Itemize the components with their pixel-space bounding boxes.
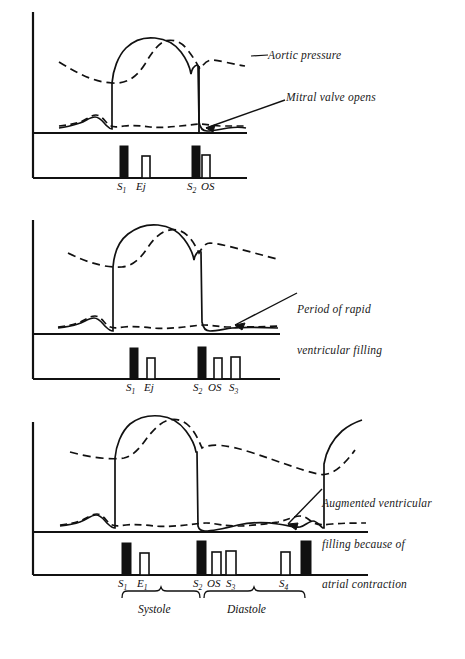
augmented-filling-label: Augmented ventricular filling because of… — [322, 470, 432, 619]
s3-bar — [231, 357, 240, 379]
sound-label-os: OS — [201, 180, 214, 192]
s3-bar — [226, 551, 236, 575]
sound-label-s1-sub: 1 — [124, 583, 128, 592]
sound-label-os-base: OS — [207, 577, 220, 589]
mitral-valve-opens-label: Mitral valve opens — [286, 91, 376, 105]
sound-label-s2-sub: 2 — [199, 583, 203, 592]
sound-label-os: OS — [207, 577, 220, 589]
sound-label-s2: S2 — [193, 381, 202, 396]
augmented-filling-leader — [288, 489, 322, 524]
rapid-filling-label: Period of rapid ventricular filling — [297, 276, 382, 384]
sound-label-s3: S3 — [226, 577, 235, 592]
sound-label-e1-base: E — [137, 577, 144, 589]
sound-label-s1: S1 — [126, 381, 135, 396]
s2-bar — [192, 146, 200, 178]
sound-label-s2: S2 — [193, 577, 202, 592]
sound-label-s4: S4 — [279, 577, 288, 592]
s1-bar — [122, 543, 131, 575]
augmented-filling-line1: Augmented ventricular — [322, 497, 432, 511]
panel-2-plot — [0, 208, 465, 408]
sound-label-s4-sub: 4 — [285, 583, 289, 592]
s1-bar — [130, 348, 138, 379]
ventricular-pressure-curve — [58, 225, 278, 331]
os-bar — [212, 552, 221, 575]
rapid-filling-line1: Period of rapid — [297, 303, 382, 317]
diastole-label: Diastole — [227, 603, 266, 615]
ej-bar — [147, 358, 155, 379]
sound-label-os-base: OS — [201, 180, 214, 192]
sound-label-os: OS — [208, 381, 221, 393]
atrial-pressure-curve — [60, 514, 366, 526]
sound-label-s3-sub: 3 — [232, 583, 236, 592]
os-bar — [202, 155, 210, 178]
sound-label-ej-base: Ej — [136, 180, 146, 192]
atrial-pressure-curve — [59, 115, 246, 127]
sound-label-s1-sub: 1 — [132, 387, 136, 396]
augmented-filling-line2: filling because of — [322, 538, 432, 552]
aortic-pressure-curve — [70, 419, 355, 474]
ej-bar — [142, 156, 150, 178]
rapid-filling-line2: ventricular filling — [297, 344, 382, 358]
aortic-pressure-curve — [59, 40, 245, 83]
rapid-filling-leader — [235, 293, 297, 325]
e1-bar — [140, 553, 149, 575]
s2-bar — [197, 541, 206, 575]
s1-next-bar — [301, 541, 311, 575]
sound-label-s3-sub: 3 — [235, 387, 239, 396]
sound-label-os-base: OS — [208, 381, 221, 393]
panel-3: Augmented ventricular filling because of… — [0, 412, 465, 659]
sound-label-s1: S1 — [117, 180, 126, 195]
sound-label-ej-base: Ej — [144, 381, 154, 393]
sound-label-s2-sub: 2 — [199, 387, 203, 396]
sound-label-ej: Ej — [136, 180, 146, 192]
mitral-valve-leader — [206, 100, 285, 128]
sound-label-e1-sub: 1 — [144, 583, 148, 592]
augmented-filling-line3: atrial contraction — [322, 578, 432, 592]
systole-label: Systole — [138, 603, 171, 615]
s4-bar — [281, 552, 290, 575]
panel-2: Period of rapid ventricular filling S1 E… — [0, 208, 465, 408]
aortic-pressure-curve — [68, 230, 277, 268]
panel-1-plot — [0, 0, 465, 200]
os-bar — [214, 358, 222, 379]
sound-label-s3: S3 — [229, 381, 238, 396]
sound-label-s1: S1 — [118, 577, 127, 592]
sound-label-s2: S2 — [187, 180, 196, 195]
s1-bar — [120, 146, 128, 178]
ventricular-pressure-curve — [60, 416, 362, 531]
sound-label-s2-sub: 2 — [193, 186, 197, 195]
panel-1: Aortic pressure Mitral valve opens S1 Ej… — [0, 0, 465, 200]
sound-label-s1-sub: 1 — [123, 186, 127, 195]
aortic-pressure-label: Aortic pressure — [268, 49, 341, 63]
sound-label-e1: E1 — [137, 577, 147, 592]
systole-bracket — [122, 587, 200, 598]
sound-label-ej: Ej — [144, 381, 154, 393]
s2-bar — [198, 347, 206, 379]
aortic-pressure-leader — [251, 55, 268, 56]
